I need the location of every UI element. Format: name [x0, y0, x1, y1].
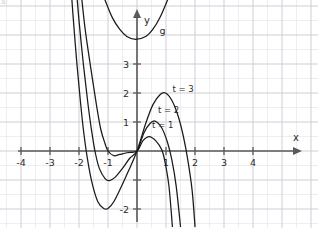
curve-labels: t = 1t = 2t = 3g: [152, 25, 194, 131]
x-tick-label: 4: [250, 157, 256, 168]
x-axis-label: x: [293, 132, 299, 143]
curve-label-g: g: [160, 25, 166, 36]
x-tick-label: -4: [16, 157, 25, 168]
graph-figure: a) -4-3-2-11234321-2 t = 1t = 2t = 3g x …: [0, 0, 318, 228]
x-tick-label: 2: [192, 157, 198, 168]
y-tick-label: -2: [120, 204, 129, 215]
y-tick-label: 1: [123, 117, 129, 128]
y-axis-arrowhead: [133, 9, 141, 18]
y-tick-label: 2: [123, 88, 129, 99]
curve-label-t-2: t = 2: [158, 105, 179, 115]
coordinate-plot: -4-3-2-11234321-2 t = 1t = 2t = 3g x y: [0, 0, 318, 228]
x-tick-label: -1: [103, 157, 112, 168]
curve-label-t-1: t = 1: [152, 120, 173, 130]
axes: [18, 9, 302, 222]
x-tick-label: -3: [45, 157, 54, 168]
y-axis-label: y: [144, 15, 150, 26]
y-tick-label: 3: [123, 59, 129, 70]
x-tick-label: 3: [221, 157, 227, 168]
curve-label-t-3: t = 3: [172, 84, 193, 94]
x-tick-label: -2: [74, 157, 83, 168]
x-axis-arrowhead: [293, 147, 302, 155]
